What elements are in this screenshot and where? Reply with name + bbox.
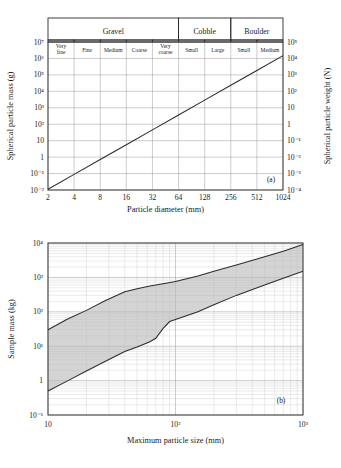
x-tick-label-b: 10 bbox=[44, 420, 52, 429]
y2-tick-label-a: 10⁻⁴ bbox=[287, 186, 302, 195]
y-tick-label-a: 10⁷ bbox=[34, 38, 45, 47]
y-tick-label-a: 10⁻¹ bbox=[30, 169, 44, 178]
y-tick-label-a: 10 bbox=[36, 136, 44, 145]
y-tick-label-b: 10⁴ bbox=[33, 239, 44, 248]
y-tick-label-a: 1 bbox=[40, 153, 44, 162]
x-axis-title-b: Maximum particle size (mm) bbox=[127, 436, 224, 445]
y-tick-label-a: 10³ bbox=[34, 103, 45, 112]
x-tick-label-a: 256 bbox=[225, 193, 237, 202]
y2-tick-label-a: 10⁻¹ bbox=[287, 136, 301, 145]
y2-tick-label-a: 10⁻² bbox=[287, 153, 302, 162]
y-tick-label-a: 10⁴ bbox=[34, 87, 45, 96]
class-sub-label: Coarse bbox=[132, 47, 148, 53]
panel-b: 1010²10³10⁻¹110¹10²10³10⁴Maximum particl… bbox=[0, 225, 341, 468]
y-tick-label-b: 1 bbox=[39, 376, 43, 385]
x-tick-label-a: 64 bbox=[175, 193, 183, 202]
x-axis-title-a: Particle diameter (mm) bbox=[127, 205, 204, 214]
class-sub-label: coarse bbox=[158, 49, 173, 55]
x-tick-label-a: 8 bbox=[98, 193, 102, 202]
class-group-label: Gravel bbox=[103, 27, 125, 36]
class-sub-label: Large bbox=[211, 47, 224, 53]
y-tick-label-a: 10⁻² bbox=[30, 186, 45, 195]
x-tick-label-a: 2 bbox=[46, 193, 50, 202]
figure-particle-size-sample-mass: GravelCobbleBoulderVeryfineFineMediumCoa… bbox=[0, 0, 341, 468]
classification-header: GravelCobbleBoulderVeryfineFineMediumCoa… bbox=[48, 18, 283, 55]
x-tick-label-a: 128 bbox=[199, 193, 211, 202]
class-sub-label: Medium bbox=[261, 47, 280, 53]
y-tick-label-b: 10¹ bbox=[33, 342, 43, 351]
y2-tick-label-a: 1 bbox=[287, 120, 291, 129]
y-tick-label-a: 10⁵ bbox=[34, 70, 45, 79]
y2-tick-label-a: 10⁵ bbox=[287, 38, 298, 47]
panel-label-a: (a) bbox=[267, 175, 276, 184]
x-tick-label-a: 32 bbox=[149, 193, 157, 202]
grid-a bbox=[48, 42, 283, 190]
class-sub-label: Fine bbox=[82, 47, 92, 53]
x-tick-label-a: 512 bbox=[251, 193, 263, 202]
x-tick-label-a: 4 bbox=[72, 193, 76, 202]
y-tick-label-a: 10⁶ bbox=[34, 54, 45, 63]
mass-diameter-line bbox=[48, 56, 283, 190]
y2-axis-title-a: Spherical particle weight (N) bbox=[323, 68, 332, 165]
class-sub-label: Small bbox=[185, 47, 198, 53]
class-group-label: Cobble bbox=[193, 27, 216, 36]
y2-tick-label-a: 10³ bbox=[287, 70, 298, 79]
panel-label-b: (b) bbox=[277, 396, 286, 405]
y2-tick-label-a: 10² bbox=[287, 87, 298, 96]
class-sub-label: Small bbox=[237, 47, 250, 53]
y-tick-label-b: 10³ bbox=[33, 273, 44, 282]
class-sub-label: fine bbox=[57, 49, 66, 55]
y-tick-label-b: 10⁻¹ bbox=[29, 411, 43, 420]
panel-a: GravelCobbleBoulderVeryfineFineMediumCoa… bbox=[0, 0, 341, 225]
class-sub-label: Medium bbox=[104, 47, 123, 53]
y-axis-title-b: Sample mass (kg) bbox=[7, 299, 16, 359]
x-tick-label-b: 10² bbox=[171, 420, 182, 429]
y-tick-label-a: 10² bbox=[34, 120, 45, 129]
y-tick-label-b: 10² bbox=[33, 307, 44, 316]
class-group-label: Boulder bbox=[244, 27, 270, 36]
y2-tick-label-a: 10 bbox=[287, 103, 295, 112]
x-tick-label-b: 10³ bbox=[298, 420, 309, 429]
plot-frame-a bbox=[48, 42, 283, 190]
x-tick-label-a: 16 bbox=[123, 193, 131, 202]
y2-tick-label-a: 10⁻³ bbox=[287, 169, 302, 178]
y-axis-title-a: Spherical particle mass (g) bbox=[6, 71, 15, 160]
y2-tick-label-a: 10⁴ bbox=[287, 54, 298, 63]
